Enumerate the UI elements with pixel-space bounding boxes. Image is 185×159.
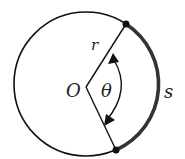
arrowhead-upper-icon — [108, 53, 119, 64]
angle-label: θ — [101, 80, 112, 101]
radius-label: r — [91, 36, 99, 54]
arc-endpoint-top — [123, 21, 130, 28]
radius-upper — [86, 24, 126, 87]
arc-s — [116, 24, 159, 150]
center-label: O — [66, 80, 81, 101]
arc-label: s — [164, 81, 173, 102]
arc-length-diagram: O r θ s — [0, 0, 185, 159]
arc-endpoint-bottom — [113, 147, 120, 154]
